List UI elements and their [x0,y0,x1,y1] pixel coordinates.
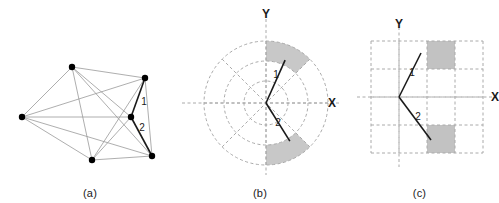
graph-edge [22,78,145,117]
shaded-cell [427,41,455,69]
graph-edge-label: 1 [141,96,147,107]
grid-diagram: 12YX [340,0,499,175]
grid-vector-label: 2 [415,111,421,122]
node-upper-right [142,75,148,81]
panel-c-grid: 12YX (c) [340,0,499,203]
caption-b: (b) [180,187,340,199]
node-bottom-right [149,153,155,159]
axis-label-y: Y [262,7,270,21]
polar-vector-label: 2 [275,117,281,128]
polar-vector-label: 1 [273,69,279,80]
node-center [128,114,134,120]
axis-label-x: X [328,96,336,110]
node-bottom-left [89,157,95,163]
graph-diagram: 12 [0,0,180,175]
graph-edge [92,117,131,160]
panel-a-graph: 12 (a) [0,0,180,203]
graph-edge [72,67,152,156]
graph-edge [22,117,152,156]
figure-container: 12 (a) 12YX (b) 12YX (c) [0,0,499,203]
axis-label-y: Y [395,17,403,31]
graph-edge [92,156,152,160]
axis-label-x: X [491,90,499,104]
node-left [19,114,25,120]
caption-a: (a) [0,187,180,199]
node-top [69,64,75,70]
panel-b-polar: 12YX (b) [180,0,340,203]
graph-edge [22,67,72,117]
graph-edge [22,117,92,160]
grid-vector-label: 1 [409,67,415,78]
caption-c: (c) [340,187,499,199]
graph-edge-label: 2 [139,122,145,133]
polar-diagram: 12YX [180,0,340,175]
